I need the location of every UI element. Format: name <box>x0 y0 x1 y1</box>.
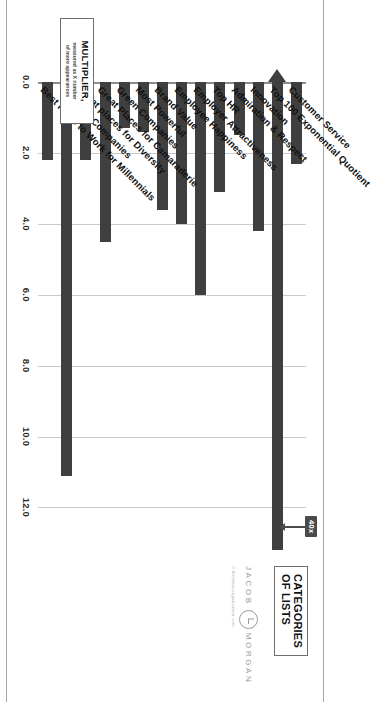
callout-badge-label: 40x <box>305 516 317 537</box>
bar <box>272 82 283 550</box>
brand-copyright: © thefutureorganization.com <box>231 566 236 696</box>
callout-stem <box>285 526 305 528</box>
tick-label: 12.0 <box>21 498 32 517</box>
bar-row <box>191 82 210 550</box>
multiplier-legend-box: MULTIPLIER, measured as X number of more… <box>60 18 94 124</box>
tick-label: 10.0 <box>21 427 32 446</box>
categories-of-lists-box: CATEGORIES OF LISTS <box>274 566 308 656</box>
bar-row <box>38 82 57 550</box>
multiplier-subtitle-line2: of more appearances <box>65 25 72 117</box>
tick-label: 6.0 <box>21 288 32 302</box>
categories-box-line2: OF LISTS <box>280 574 292 648</box>
tick-label: 2.0 <box>21 146 32 160</box>
page-border-top <box>323 0 324 702</box>
bar <box>61 82 72 476</box>
brand-logo-row: JACOB MORGAN <box>239 566 258 696</box>
tick-label: 4.0 <box>21 217 32 231</box>
brand-word-left: JACOB <box>244 566 253 606</box>
categories-box-line1: CATEGORIES <box>291 574 303 648</box>
tick-label: 8.0 <box>21 359 32 373</box>
multiplier-title: MULTIPLIER, <box>80 25 90 117</box>
multiplier-subtitle-line1: measured as X number <box>71 25 78 117</box>
bar-row <box>76 82 95 550</box>
bar-row <box>57 82 76 550</box>
plot-area: 0.02.04.06.08.010.012.0 Customer Service… <box>38 82 306 550</box>
callout-arrow-icon <box>280 523 285 531</box>
multiplier-callout: 40x <box>280 516 317 537</box>
bar-row <box>210 82 229 550</box>
bar-row <box>268 82 287 550</box>
bar-row <box>172 82 191 550</box>
brand-logo: JACOB MORGAN © thefutureorganization.com <box>231 566 258 696</box>
page-border-bottom <box>6 0 7 702</box>
tick-label: 0.0 <box>21 75 32 89</box>
brand-monogram-icon <box>239 610 258 629</box>
brand-word-right: MORGAN <box>244 633 253 685</box>
